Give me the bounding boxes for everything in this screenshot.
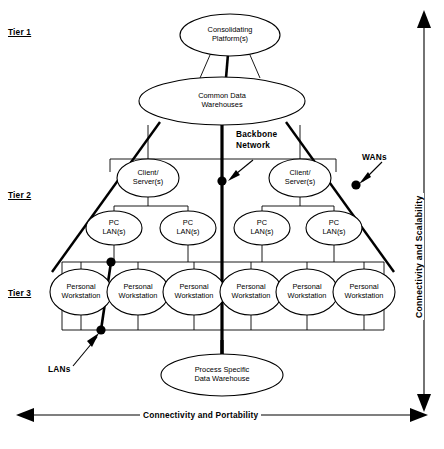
axis-label-bottom: Connectivity and Portability bbox=[140, 410, 261, 420]
drops-pclan-to-bus bbox=[114, 245, 334, 262]
connector-platform-backbone bbox=[226, 54, 228, 78]
node-common-data-warehouses bbox=[139, 77, 305, 125]
wan-junction-dot bbox=[351, 180, 360, 189]
wans-arrow-head bbox=[359, 172, 371, 184]
node-personal-workstation-4 bbox=[220, 269, 282, 315]
tier-label-tier1: Tier 1 bbox=[8, 27, 31, 37]
axis-bottom-arrow-right bbox=[410, 408, 428, 422]
axis-bottom-arrow-left bbox=[16, 408, 34, 422]
node-pc-lan-3 bbox=[234, 211, 290, 245]
connector-platform-to-warehouses bbox=[200, 55, 260, 78]
lan-junction-dot-upper bbox=[106, 257, 115, 266]
node-personal-workstation-1 bbox=[50, 269, 112, 315]
backbone-junction-dot bbox=[217, 176, 226, 185]
node-personal-workstation-6 bbox=[333, 269, 395, 315]
tier-label-tier2: Tier 2 bbox=[8, 190, 31, 200]
node-personal-workstation-3 bbox=[163, 269, 225, 315]
axis-right-arrow-up bbox=[417, 10, 431, 28]
node-consolidating-platform bbox=[180, 14, 280, 56]
node-client-server-right bbox=[269, 159, 331, 197]
node-pc-lan-1 bbox=[86, 211, 142, 245]
tier-label-tier3: Tier 3 bbox=[8, 288, 31, 298]
node-pc-lan-4 bbox=[306, 211, 362, 245]
diagram-vector-layer bbox=[0, 0, 444, 449]
comb-client-right bbox=[262, 197, 334, 211]
node-client-server-left bbox=[117, 159, 179, 197]
lan-junction-dot-lower bbox=[96, 325, 105, 334]
annotation-wans: WANs bbox=[362, 152, 387, 162]
axis-right-arrow-down bbox=[417, 394, 431, 412]
node-personal-workstation-2 bbox=[107, 269, 169, 315]
diagram-canvas: Consolidating Platform(s) Common Data Wa… bbox=[0, 0, 444, 449]
comb-client-left bbox=[114, 197, 188, 211]
node-personal-workstation-5 bbox=[276, 269, 338, 315]
lans-arrow-head bbox=[87, 333, 99, 347]
node-process-specific-data-warehouse bbox=[161, 354, 283, 396]
node-pc-lan-2 bbox=[160, 211, 216, 245]
annotation-backbone-network: Backbone Network bbox=[236, 129, 277, 150]
axis-label-right: Connectivity and Scalability bbox=[414, 193, 424, 320]
annotation-lans: LANs bbox=[48, 364, 70, 374]
